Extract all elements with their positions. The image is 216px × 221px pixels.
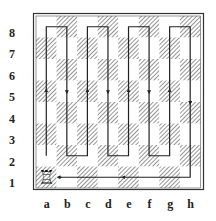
file-label-e: e	[126, 197, 132, 211]
rank-labels: 87654321	[9, 26, 15, 191]
board-squares	[36, 16, 201, 188]
file-label-d: d	[105, 197, 112, 211]
rank-label-3: 3	[9, 133, 15, 147]
rank-label-7: 7	[9, 47, 15, 61]
file-label-a: a	[44, 197, 50, 211]
file-label-h: h	[187, 197, 194, 211]
file-label-c: c	[85, 197, 91, 211]
rank-label-6: 6	[9, 69, 15, 83]
file-label-f: f	[148, 197, 153, 211]
chess-board-diagram: 87654321 abcdefgh ♖	[0, 0, 216, 221]
rank-label-4: 4	[9, 112, 15, 126]
white-rook-piece: ♖	[38, 166, 55, 188]
rank-label-2: 2	[9, 155, 15, 169]
file-label-g: g	[167, 197, 173, 211]
file-label-b: b	[64, 197, 71, 211]
rank-label-5: 5	[9, 90, 15, 104]
file-labels: abcdefgh	[44, 197, 195, 211]
rank-label-8: 8	[9, 26, 15, 40]
rank-label-1: 1	[9, 176, 15, 190]
